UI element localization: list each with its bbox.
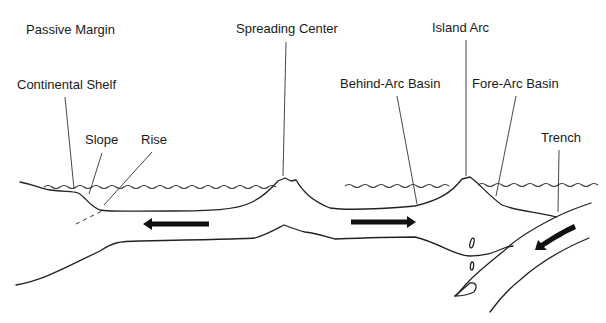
- seafloor-profile: [20, 177, 556, 217]
- label-slope: Slope: [85, 132, 118, 147]
- label-rise: Rise: [141, 132, 167, 147]
- leader-fore-arc-basin: [496, 96, 516, 196]
- magma-droplet-lower: [470, 262, 474, 270]
- leader-continental-shelf: [65, 97, 74, 189]
- slab-upper-top: [556, 203, 591, 217]
- arrow-left-icon: [143, 218, 209, 230]
- leader-spreading-center: [283, 42, 286, 176]
- leader-lines: [65, 40, 559, 212]
- label-island-arc: Island Arc: [432, 20, 490, 35]
- leader-rise: [104, 152, 152, 205]
- label-trench: Trench: [541, 130, 581, 145]
- label-passive-margin: Passive Margin: [26, 22, 115, 37]
- lithosphere-base: [16, 225, 513, 285]
- label-continental-shelf: Continental Shelf: [17, 77, 116, 92]
- label-fore-arc-basin: Fore-Arc Basin: [472, 76, 559, 91]
- sea-level: [44, 184, 598, 189]
- tectonic-diagram: Passive Margin Continental Shelf Slope R…: [0, 0, 606, 323]
- magma-droplet-upper: [469, 238, 475, 249]
- label-spreading-center: Spreading Center: [236, 21, 339, 36]
- arrow-right-icon: [351, 216, 416, 228]
- rise-extension: [76, 211, 102, 224]
- label-behind-arc-basin: Behind-Arc Basin: [340, 76, 440, 91]
- leader-trench: [558, 150, 559, 212]
- leader-behind-arc-basin: [397, 96, 417, 204]
